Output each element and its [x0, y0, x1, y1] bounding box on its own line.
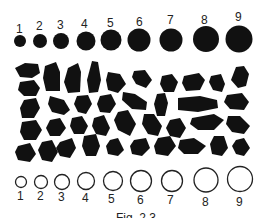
particle: [182, 73, 205, 91]
top-label-6: 6: [136, 15, 143, 29]
bottom-label-5: 5: [108, 192, 115, 206]
particle: [210, 136, 228, 156]
top-label-7: 7: [167, 13, 174, 27]
particle: [15, 143, 36, 162]
bottom-label-4: 4: [82, 191, 89, 205]
particle-size-figure: 1 2 3 4 5 6 7 8 9: [0, 0, 268, 218]
particle: [92, 115, 110, 136]
particle: [106, 72, 126, 93]
bottom-open-scale: [16, 167, 253, 193]
particle: [142, 114, 162, 136]
bottom-label-6: 6: [137, 193, 144, 207]
top-label-9: 9: [235, 10, 242, 24]
particle-field: [15, 61, 250, 162]
particle: [46, 118, 66, 136]
particle: [74, 95, 92, 114]
open-circle-6: [131, 171, 152, 192]
particle: [64, 63, 81, 93]
filled-circle-9: [226, 26, 253, 53]
filled-circle-6: [128, 29, 151, 52]
particle: [122, 92, 147, 110]
top-label-2: 2: [36, 19, 43, 33]
open-circle-9: [228, 167, 253, 192]
open-circle-3: [55, 175, 70, 190]
particle: [209, 74, 225, 92]
particle: [166, 118, 186, 138]
top-label-3: 3: [57, 18, 64, 32]
particle: [114, 110, 136, 136]
particle: [38, 140, 58, 162]
open-circle-2: [35, 176, 48, 189]
particle: [190, 114, 224, 130]
particle: [224, 93, 249, 110]
open-circle-7: [162, 171, 183, 192]
particle: [48, 96, 70, 115]
particle: [20, 120, 42, 140]
bottom-label-3: 3: [58, 190, 65, 204]
figure-caption: Fig. 2.3: [116, 211, 156, 218]
particle: [154, 136, 176, 156]
bottom-label-9: 9: [236, 195, 243, 209]
filled-circle-7: [160, 29, 183, 52]
filled-circle-3: [53, 33, 69, 49]
open-circle-1: [16, 177, 27, 188]
particle: [178, 96, 218, 112]
particle: [130, 138, 150, 156]
bottom-label-7: 7: [167, 193, 174, 207]
top-filled-scale: 1 2 3 4 5 6 7 8 9: [14, 10, 253, 53]
particle: [232, 138, 250, 156]
bottom-label-2: 2: [37, 189, 44, 203]
bottom-label-1: 1: [17, 189, 24, 203]
filled-circle-8: [193, 26, 219, 52]
top-label-5: 5: [107, 16, 114, 30]
particle: [226, 116, 250, 134]
particle: [106, 138, 124, 156]
top-label-1: 1: [16, 22, 23, 36]
bottom-label-8: 8: [202, 195, 209, 209]
open-circle-5: [104, 172, 123, 191]
particle: [15, 63, 40, 78]
particle: [231, 66, 249, 88]
filled-circle-1: [14, 35, 26, 47]
particle: [56, 138, 76, 158]
top-label-4: 4: [81, 17, 88, 31]
open-circle-8: [194, 168, 218, 192]
particle: [154, 93, 168, 116]
top-label-8: 8: [201, 13, 208, 27]
filled-circle-5: [101, 30, 122, 51]
particle: [70, 116, 88, 134]
open-circle-4: [78, 173, 95, 190]
particle: [18, 80, 40, 96]
particle: [178, 138, 206, 154]
particle: [87, 61, 101, 93]
particle: [132, 70, 152, 88]
filled-circle-4: [77, 32, 96, 51]
particle: [97, 94, 116, 113]
particle: [82, 134, 100, 156]
particle: [43, 62, 60, 91]
filled-circle-2: [33, 34, 47, 48]
particle: [160, 74, 178, 92]
particle: [20, 98, 40, 118]
